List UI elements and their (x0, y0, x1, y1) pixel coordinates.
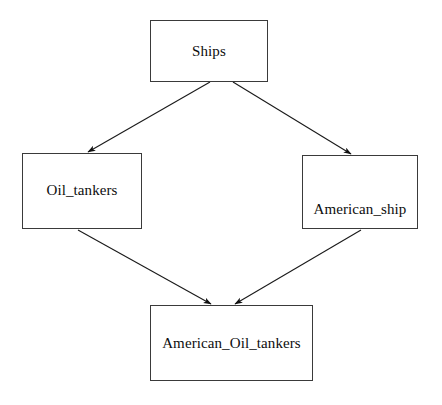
node-oil-tankers-label: Oil_tankers (46, 183, 117, 198)
node-oil-tankers[interactable]: Oil_tankers (22, 153, 142, 229)
edge-american-ship-to-american-oil-tankers (235, 230, 361, 304)
node-american-oil-tankers[interactable]: American_Oil_tankers (150, 305, 313, 381)
edge-ships-to-oil-tankers (88, 82, 210, 152)
node-ships[interactable]: Ships (150, 20, 268, 82)
edge-oil-tankers-to-american-oil-tankers (78, 230, 211, 304)
node-ships-label: Ships (192, 44, 226, 59)
diagram-canvas: Ships Oil_tankers American_ship American… (0, 0, 442, 405)
node-american-ship-label: American_ship (314, 202, 407, 217)
edge-ships-to-american-ship (233, 82, 351, 154)
node-american-ship[interactable]: American_ship (302, 155, 418, 229)
node-american-oil-tankers-label: American_Oil_tankers (162, 336, 301, 351)
